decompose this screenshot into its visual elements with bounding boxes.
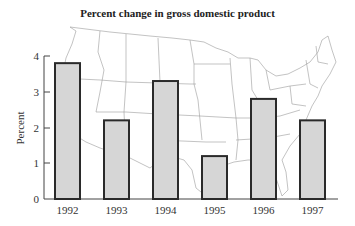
x-tick-labels: 199219931994199519961997 — [57, 204, 325, 216]
x-tick-label: 1993 — [106, 204, 129, 216]
y-tick-label: 2 — [34, 122, 40, 134]
bar-1995 — [202, 156, 227, 199]
x-tick-label: 1997 — [302, 204, 325, 216]
bar-1994 — [153, 81, 178, 199]
y-axis-label: Percent — [14, 112, 26, 145]
x-tick-label: 1994 — [155, 204, 178, 216]
bar-chart: 4 3 2 1 0 Percent 1992199319941995199619… — [0, 0, 355, 226]
x-tick-label: 1992 — [57, 204, 79, 216]
y-tick-label: 4 — [34, 50, 40, 62]
us-map-background — [60, 27, 336, 196]
bars-group — [55, 63, 325, 199]
y-tick-label: 3 — [34, 86, 40, 98]
bar-1993 — [104, 120, 129, 199]
bar-1992 — [55, 63, 80, 199]
y-tick-label: 0 — [34, 193, 40, 205]
bar-1997 — [300, 120, 325, 199]
bar-1996 — [251, 99, 276, 199]
y-axis: 4 3 2 1 0 Percent — [14, 50, 50, 205]
x-tick-label: 1996 — [253, 204, 276, 216]
y-tick-label: 1 — [34, 157, 40, 169]
x-tick-label: 1995 — [204, 204, 227, 216]
